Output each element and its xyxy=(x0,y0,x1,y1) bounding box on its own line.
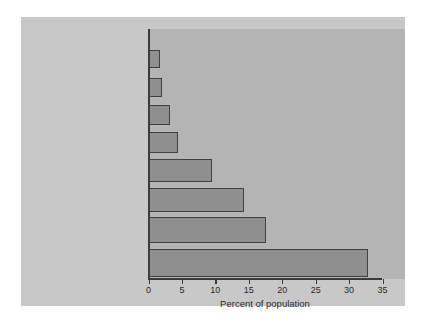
x-axis-tick-label-25: 25 xyxy=(311,285,321,295)
x-axis-title: Percent of population xyxy=(148,298,382,309)
x-axis-tick-30 xyxy=(349,279,350,284)
category-label-phobia: Phobia xyxy=(0,192,87,203)
bar-panic-disorder xyxy=(149,50,160,68)
x-axis-tick-label-0: 0 xyxy=(146,285,151,295)
x-axis-tick-label-20: 20 xyxy=(277,285,287,295)
x-axis-tick-10 xyxy=(215,279,216,284)
x-axis-tick-20 xyxy=(282,279,283,284)
category-label-schizophrenia: Schizophrenia xyxy=(0,83,87,94)
bar-antisocial-personality xyxy=(149,132,178,153)
category-label-line: compulsive disorder xyxy=(0,116,87,127)
x-axis-tick-label-5: 5 xyxy=(179,285,184,295)
category-label-obsessive-compulsive-disorder: Obsessive- compulsive disorder xyxy=(0,105,87,127)
category-label-line: Phobia xyxy=(0,192,87,203)
chart-figure: Panic disorder Schizophrenia Obsessive- … xyxy=(21,17,405,306)
bar-obsessive-compulsive-disorder xyxy=(149,105,170,125)
bar-alcohol-or-drug-abuse xyxy=(149,217,266,243)
category-label-line: Panic disorder xyxy=(0,56,87,67)
x-axis-tick-label-35: 35 xyxy=(377,285,387,295)
category-label-line: drug abuse xyxy=(0,226,87,237)
category-label-line: Obsessive- xyxy=(0,105,87,116)
category-label-antisocial-personality: Antisocial personality xyxy=(0,132,87,154)
bar-schizophrenia xyxy=(149,78,162,97)
bar-any-disorder xyxy=(149,249,368,277)
bar-phobia xyxy=(149,188,244,212)
category-label-line: personality xyxy=(0,143,87,154)
x-axis-tick-35 xyxy=(383,279,384,284)
x-axis-tick-5 xyxy=(182,279,183,284)
x-axis-tick-label-10: 10 xyxy=(210,285,220,295)
x-axis-tick-label-15: 15 xyxy=(244,285,254,295)
category-label-panic-disorder: Panic disorder xyxy=(0,56,87,67)
category-label-line: Mood disorders xyxy=(0,159,87,170)
category-label-any-disorder: Any disorder xyxy=(0,250,87,261)
category-label-line: (depression or mania) xyxy=(0,170,87,181)
bar-mood-disorders xyxy=(149,159,212,182)
category-label-line: Any disorder xyxy=(0,250,87,261)
category-label-line: Antisocial xyxy=(0,132,87,143)
x-axis-tick-25 xyxy=(316,279,317,284)
x-axis-tick-label-30: 30 xyxy=(344,285,354,295)
x-axis-tick-15 xyxy=(249,279,250,284)
x-axis-tick-0 xyxy=(149,279,150,284)
category-label-line: Schizophrenia xyxy=(0,83,87,94)
category-label-alcohol-or-drug-abuse: Alcohol or drug abuse xyxy=(0,215,87,237)
category-label-line: Alcohol or xyxy=(0,215,87,226)
category-label-mood-disorders: Mood disorders (depression or mania) xyxy=(0,159,87,181)
